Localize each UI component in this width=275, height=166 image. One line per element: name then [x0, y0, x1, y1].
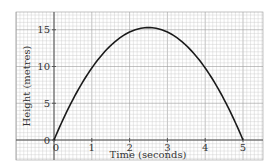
y-tick-label: 15: [37, 24, 50, 35]
chart: 012345 051015 Time (seconds) Height (met…: [0, 0, 275, 166]
y-axis-label: Height (metres): [21, 45, 32, 126]
y-tick-label: 10: [37, 61, 50, 72]
x-tick-label: 1: [89, 142, 95, 153]
x-tick-label: 5: [240, 142, 246, 153]
y-tick-label: 5: [44, 98, 50, 109]
axes: [16, 12, 263, 160]
y-tick-label: 0: [44, 135, 50, 146]
x-tick-label: 4: [202, 142, 208, 153]
x-tick-label: 0: [53, 142, 59, 153]
grid-lines: [16, 12, 263, 160]
x-axis-label: Time (seconds): [110, 149, 187, 160]
